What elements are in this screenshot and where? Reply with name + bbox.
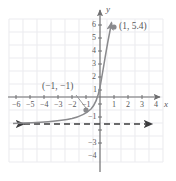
x-tick-label--5: −5 (26, 101, 35, 109)
x-tick-label-3: 3 (140, 101, 144, 109)
y-tick-label--1: −1 (88, 113, 97, 121)
y-tick-label-3: 3 (92, 60, 96, 68)
y-tick-label-6: 6 (92, 21, 96, 29)
x-tick-label--2: −2 (68, 101, 77, 109)
x-tick-label--1: −1 (82, 101, 91, 109)
x-tick-label-1: 1 (112, 101, 116, 109)
y-tick-label--3: −3 (88, 139, 97, 147)
y-tick-label-5: 5 (92, 34, 96, 42)
y-tick-label-1: 1 (93, 86, 97, 94)
point-label-neg1-neg1: (−1, −1) (42, 82, 73, 92)
x-tick-label--3: −3 (54, 101, 63, 109)
point-label-1-5-4: (1, 5.4) (119, 22, 147, 32)
graph-figure: −6 −5 −4 −3 −2 −1 1 2 3 4 6 5 4 3 2 1 −1… (0, 0, 176, 181)
y-tick-label-4: 4 (92, 47, 96, 55)
x-tick-label-4: 4 (154, 101, 158, 109)
y-tick-label--4: −4 (88, 152, 97, 160)
y-tick-label-2: 2 (92, 73, 96, 81)
point-1-5-4-marker (111, 24, 116, 29)
y-axis-label: y (106, 5, 110, 14)
x-tick-label-2: 2 (126, 101, 130, 109)
x-tick-label--6: −6 (12, 101, 21, 109)
x-tick-label--4: −4 (40, 101, 49, 109)
x-axis-label: x (164, 100, 168, 109)
grid-lines (9, 19, 163, 162)
